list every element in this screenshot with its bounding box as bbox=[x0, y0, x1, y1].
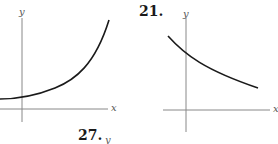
graphs-canvas bbox=[0, 0, 278, 144]
left-y-label: y bbox=[19, 6, 25, 17]
figure-number-21: 21. bbox=[139, 3, 163, 19]
right-x-label: x bbox=[273, 103, 278, 114]
figure-27-y-label: y bbox=[105, 134, 111, 144]
left-x-label: x bbox=[111, 102, 117, 113]
right-curve bbox=[168, 36, 258, 88]
figure-number-27: 27. bbox=[78, 127, 102, 143]
right-y-label: y bbox=[183, 8, 189, 19]
left-curve bbox=[0, 20, 109, 99]
